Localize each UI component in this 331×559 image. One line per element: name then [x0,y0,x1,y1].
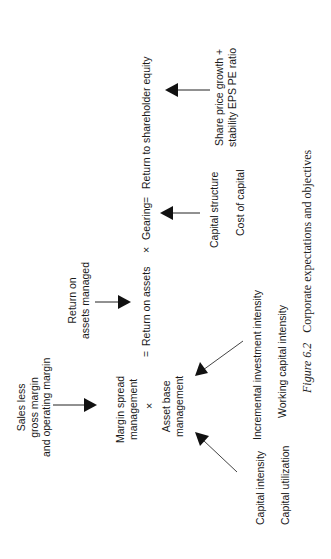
margin-spread-management-label: Margin spread management [114,376,139,443]
incremental-investment-intensity-label: Incremental investment intensity [251,290,264,440]
figure-caption: Figure 6.2Corporate expectations and obj… [301,150,314,393]
arrow-capital-intensity-to-asset-base-icon [195,432,237,472]
times-sign-2: × [143,403,156,409]
figure-title: Corporate expectations and objectives [300,150,314,333]
times-sign-1: × [140,247,153,253]
equals-sign-2: = [140,197,153,203]
roam-line-1: Return on [66,262,79,339]
roam-line-2: assets managed [79,262,92,339]
capital-intensity-label: Capital intensity [254,451,267,525]
margin-spread-line-2: management [127,376,140,443]
asset-base-line-2: management [173,376,186,437]
figure-page: = Return on assets × Gearing = Return to… [0,0,331,559]
figure-number: Figure 6.2 [300,343,314,393]
share-price-line-1: Share price growth + [213,48,226,147]
arrow-capital-structure-to-gearing-icon [160,206,200,220]
capital-utilization-label: Capital utilization [279,446,292,525]
share-price-line-2: stability EPS PE ratio [226,48,239,147]
sales-less-line-2: gross margin [28,358,41,457]
return-on-assets-managed-label: Return on assets managed [66,262,91,339]
arrow-roam-to-roa-icon [95,295,131,309]
equals-sign-1: = [140,351,153,357]
asset-base-management-label: Asset base management [160,376,185,437]
margin-spread-line-1: Margin spread [114,376,127,443]
return-on-assets-label: Return on assets [140,267,153,346]
share-price-growth-label: Share price growth + stability EPS PE ra… [213,48,238,147]
sales-less-line-3: and operating margin [40,358,53,457]
working-capital-intensity-label: Working capital intensity [276,305,289,418]
return-to-shareholder-equity-label: Return to shareholder equity [140,57,153,190]
gearing-label: Gearing [140,203,153,240]
cost-of-capital-label: Cost of capital [234,169,247,236]
asset-base-line-1: Asset base [160,376,173,437]
arrow-share-price-to-equity-icon [165,83,210,97]
arrow-incremental-to-asset-base-icon [195,341,243,376]
sales-less-line-1: Sales less [15,358,28,457]
capital-structure-label: Capital structure [208,172,221,248]
sales-less-label: Sales less gross margin and operating ma… [15,358,53,457]
arrow-sales-to-margin-icon [53,398,97,412]
